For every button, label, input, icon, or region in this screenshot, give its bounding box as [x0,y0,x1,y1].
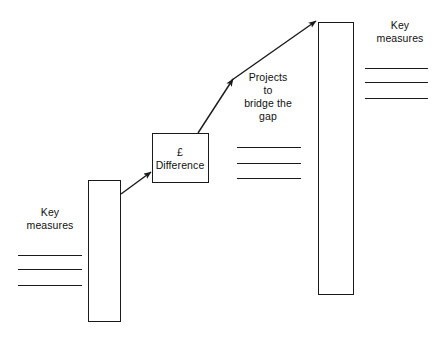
current-performance-bar [89,181,121,322]
target-performance-bar [319,23,354,295]
right-measure-lines [365,69,428,99]
right-key-measures-label: Key measures [358,19,442,45]
projects-to-bridge-the-gap-label: Projects to bridge the gap [227,71,309,123]
diagram-canvas: Key measures £ Difference Projects to br… [0,0,442,342]
left-key-measures-label: Key measures [8,206,92,232]
diagram-vector-layer [0,0,442,342]
difference-box-label: £ Difference [152,146,208,172]
arrow-current-to-difference [121,172,151,194]
middle-measure-lines [237,148,301,179]
left-measure-lines [18,256,82,286]
